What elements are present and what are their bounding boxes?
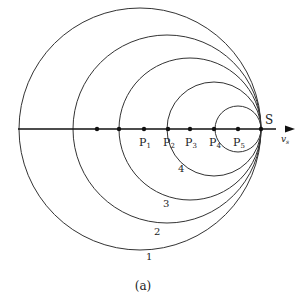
doppler-wavefront-diagram: 1234P1P2P3P4P5 S vs (a) [0,0,296,305]
velocity-label: vs [281,134,289,145]
circle-label-4: 4 [178,163,184,174]
velocity-arrow-head [285,126,295,133]
circle-label-1: 1 [146,251,152,262]
center-point [188,127,192,131]
center-point [117,127,121,131]
center-point [259,127,263,131]
point-label-p1: P1 [139,136,151,150]
center-point [142,127,146,131]
point-label-p5: P5 [233,136,245,150]
circle-label-3: 3 [163,198,169,209]
point-label-p4: P4 [209,136,221,150]
point-label-p2: P2 [163,136,175,150]
figure-caption: (a) [135,279,152,293]
center-point [95,127,99,131]
center-point [166,127,170,131]
circle-label-2: 2 [154,226,160,237]
point-label-p3: P3 [185,136,197,150]
center-point [212,127,216,131]
source-label: S [265,113,273,127]
center-point [236,127,240,131]
